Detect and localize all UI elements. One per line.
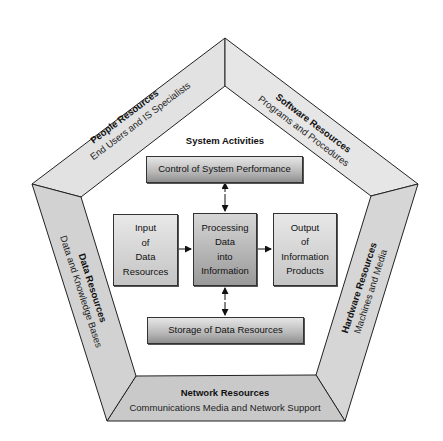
control-box: Control of System Performance [146, 156, 303, 183]
input-box: Input of Data Resources [113, 214, 178, 286]
network-resources-subtitle: Communications Media and Network Support [129, 402, 321, 413]
storage-box: Storage of Data Resources [147, 317, 304, 344]
control-label: Control of System Performance [158, 162, 291, 177]
input-line-3: Data [135, 250, 155, 265]
output-line-4: Products [286, 264, 324, 279]
input-line-4: Resources [123, 265, 168, 280]
network-resources-title: Network Resources [181, 387, 270, 398]
processing-line-1: Processing [202, 221, 249, 236]
processing-line-3: into [217, 250, 232, 265]
processing-box: Processing Data into Information [193, 213, 257, 286]
output-line-3: Information [281, 250, 329, 265]
output-box: Output of Information Products [273, 213, 337, 286]
network-resources-face [107, 375, 345, 421]
processing-line-2: Data [215, 235, 235, 250]
storage-label: Storage of Data Resources [168, 323, 283, 338]
output-line-1: Output [291, 221, 320, 236]
input-line-1: Input [135, 221, 156, 236]
output-line-2: of [301, 235, 309, 250]
processing-line-4: Information [201, 264, 249, 279]
input-line-2: of [142, 236, 150, 251]
system-activities-title: System Activities [150, 135, 300, 146]
